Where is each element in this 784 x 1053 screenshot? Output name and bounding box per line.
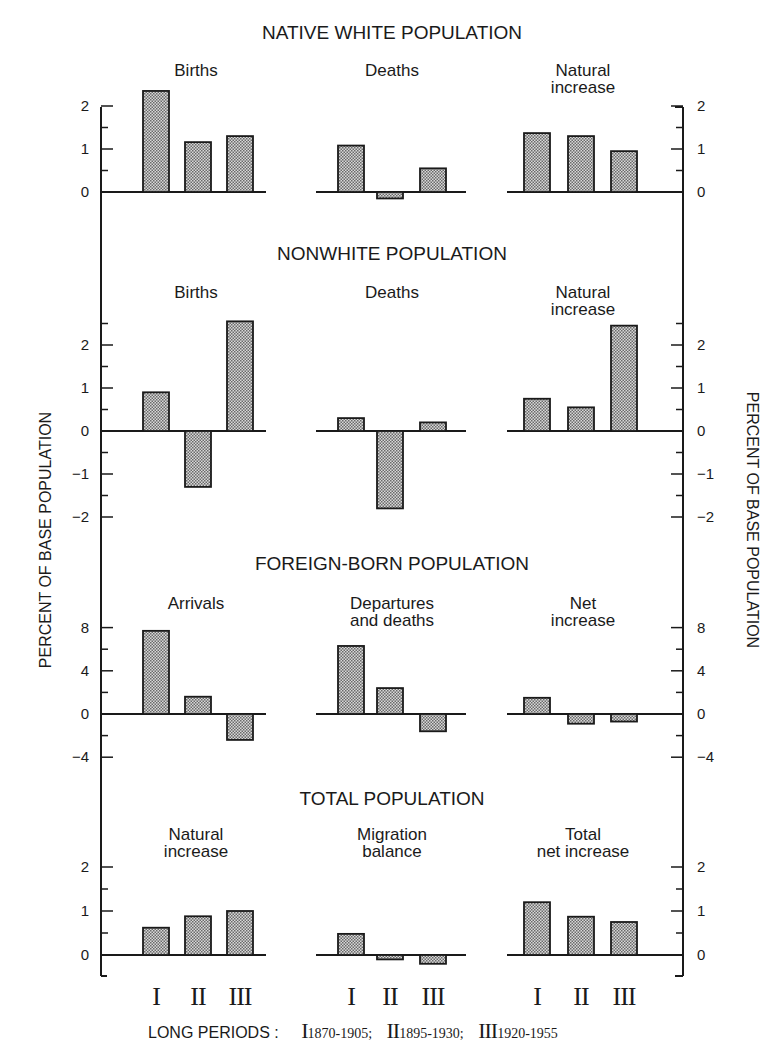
legend-years-1: 1870-1905;: [307, 1026, 372, 1041]
bar-period-2: [568, 917, 594, 955]
left-tick-label: 0: [59, 422, 89, 439]
bar-period-3: [420, 422, 446, 431]
chart-figure: [0, 0, 784, 1053]
bar-period-2: [377, 192, 403, 198]
left-tick-label: −1: [59, 465, 89, 482]
left-tick-label: 0: [59, 705, 89, 722]
left-tick-label: 8: [59, 619, 89, 636]
period-label: II: [573, 982, 588, 1012]
right-tick-label: 0: [697, 422, 727, 439]
bar-period-1: [524, 133, 550, 192]
left-tick-label: −4: [59, 748, 89, 765]
bar-period-3: [611, 922, 637, 955]
left-tick-label: 1: [59, 379, 89, 396]
period-label: I: [347, 982, 355, 1012]
bar-period-3: [611, 151, 637, 192]
bar-period-3: [611, 326, 637, 431]
left-tick-label: 2: [59, 858, 89, 875]
legend-lead: LONG PERIODS :: [148, 1024, 279, 1041]
bar-period-3: [420, 714, 446, 731]
left-tick-label: 2: [59, 336, 89, 353]
bar-period-3: [420, 168, 446, 192]
left-tick-label: 0: [59, 946, 89, 963]
period-label: III: [422, 982, 445, 1012]
bar-period-2: [185, 142, 211, 192]
period-label: II: [190, 982, 205, 1012]
bar-period-3: [227, 714, 253, 740]
period-label: I: [533, 982, 541, 1012]
bar-period-1: [338, 934, 364, 955]
bar-period-1: [338, 418, 364, 431]
bar-period-3: [227, 911, 253, 955]
bar-period-1: [143, 392, 169, 431]
bar-period-2: [568, 136, 594, 192]
left-tick-label: 1: [59, 902, 89, 919]
left-tick-label: 4: [59, 662, 89, 679]
bar-period-1: [338, 646, 364, 714]
period-label: III: [229, 982, 252, 1012]
bar-period-2: [377, 688, 403, 714]
legend-years-3: 1920-1955: [497, 1026, 558, 1041]
bar-period-1: [524, 399, 550, 431]
right-tick-label: 2: [697, 97, 727, 114]
right-tick-label: 1: [697, 379, 727, 396]
bar-period-1: [524, 698, 550, 714]
right-tick-label: 2: [697, 336, 727, 353]
panel-title: Arrivals: [168, 595, 225, 612]
panel-title: Deaths: [365, 284, 419, 301]
panel-title: Natural increase: [551, 62, 615, 96]
right-tick-label: −2: [697, 508, 727, 525]
panel-title: Total net increase: [537, 826, 630, 860]
bar-period-1: [143, 928, 169, 955]
period-label: I: [152, 982, 160, 1012]
bar-period-1: [524, 902, 550, 955]
section-title: FOREIGN-BORN POPULATION: [255, 553, 529, 575]
bar-period-2: [377, 955, 403, 959]
panel-title: Natural increase: [164, 826, 228, 860]
bar-period-3: [420, 955, 446, 964]
bar-period-3: [611, 714, 637, 722]
left-tick-label: −2: [59, 508, 89, 525]
legend-years-2: 1895-1930;: [399, 1026, 464, 1041]
right-tick-label: 2: [697, 858, 727, 875]
period-label: III: [613, 982, 636, 1012]
section-title: NATIVE WHITE POPULATION: [262, 22, 522, 44]
bar-period-2: [377, 431, 403, 508]
left-tick-label: 2: [59, 97, 89, 114]
left-tick-label: 1: [59, 140, 89, 157]
bar-period-3: [227, 321, 253, 431]
legend-numeral-2: II: [387, 1018, 400, 1043]
bar-period-1: [143, 91, 169, 192]
panel-title: Migration balance: [357, 826, 427, 860]
section-title: TOTAL POPULATION: [299, 788, 484, 810]
bar-period-1: [143, 631, 169, 714]
right-tick-label: 0: [697, 946, 727, 963]
right-tick-label: 4: [697, 662, 727, 679]
right-tick-label: 0: [697, 705, 727, 722]
panel-title: Natural increase: [551, 284, 615, 318]
panel-title: Births: [174, 62, 217, 79]
panel-title: Net increase: [551, 595, 615, 629]
panel-title: Births: [174, 284, 217, 301]
left-axis-label: PERCENT OF BASE POPULATION: [37, 412, 55, 668]
bar-period-2: [185, 916, 211, 955]
left-tick-label: 0: [59, 183, 89, 200]
period-label: II: [382, 982, 397, 1012]
legend: LONG PERIODS : I1870-1905; II1895-1930; …: [148, 1018, 568, 1044]
bar-period-3: [227, 136, 253, 192]
section-title: NONWHITE POPULATION: [277, 243, 507, 265]
bar-period-2: [185, 697, 211, 714]
bar-period-1: [338, 146, 364, 192]
right-tick-label: 8: [697, 619, 727, 636]
right-tick-label: −4: [697, 748, 727, 765]
panel-title: Departures and deaths: [350, 595, 434, 629]
right-tick-label: 1: [697, 902, 727, 919]
right-axis-label: PERCENT OF BASE POPULATION: [743, 392, 761, 648]
right-tick-label: −1: [697, 465, 727, 482]
right-tick-label: 0: [697, 183, 727, 200]
panel-title: Deaths: [365, 62, 419, 79]
bar-period-2: [568, 407, 594, 431]
bar-period-2: [185, 431, 211, 487]
right-tick-label: 1: [697, 140, 727, 157]
legend-numeral-3: III: [478, 1018, 497, 1043]
